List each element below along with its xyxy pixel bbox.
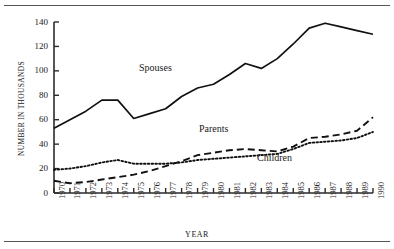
series-line-spouses <box>54 23 373 128</box>
x-tick-label: 1972 <box>89 182 98 199</box>
x-tick-label: 1974 <box>121 182 130 199</box>
y-tick-label: 120 <box>22 42 48 51</box>
y-axis-title: NUMBER IN THOUSANDS <box>17 44 26 174</box>
x-tick-label: 1971 <box>73 182 82 199</box>
axes <box>54 22 373 193</box>
x-tick-label: 1976 <box>153 182 162 199</box>
x-tick-label: 1980 <box>217 182 226 199</box>
y-tick-label: 0 <box>22 189 48 198</box>
line-chart-canvas <box>0 0 394 249</box>
x-tick-label: 1986 <box>313 182 322 199</box>
chart-figure: 020406080100120140 197019711972197319741… <box>0 0 394 249</box>
y-tick-label: 40 <box>22 140 48 149</box>
x-tick-label: 1982 <box>249 182 258 199</box>
y-tick-label: 60 <box>22 115 48 124</box>
x-tick-label: 1970 <box>58 182 67 199</box>
x-tick-label: 1984 <box>281 182 290 199</box>
x-tick-label: 1981 <box>233 182 242 199</box>
x-axis-title: YEAR <box>0 230 394 239</box>
x-tick-label: 1990 <box>377 182 386 199</box>
y-tick-label: 80 <box>22 91 48 100</box>
y-tick-label: 100 <box>22 66 48 75</box>
x-tick-label: 1988 <box>345 182 354 199</box>
x-tick-label: 1975 <box>137 182 146 199</box>
y-tick-label: 20 <box>22 164 48 173</box>
series-label-children: Children <box>257 153 292 163</box>
x-tick-label: 1979 <box>201 182 210 199</box>
x-tick-label: 1985 <box>297 182 306 199</box>
x-tick-label: 1977 <box>169 182 178 199</box>
series-label-parents: Parents <box>199 124 228 134</box>
x-tick-label: 1978 <box>185 182 194 199</box>
x-tick-label: 1983 <box>265 182 274 199</box>
x-tick-label: 1973 <box>105 182 114 199</box>
y-tick-label: 140 <box>22 18 48 27</box>
x-tick-label: 1989 <box>361 182 370 199</box>
series-label-spouses: Spouses <box>139 63 172 73</box>
x-tick-label: 1987 <box>329 182 338 199</box>
data-series <box>54 23 373 183</box>
